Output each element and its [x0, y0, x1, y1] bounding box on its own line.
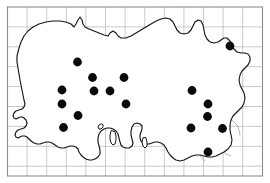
record-dot [187, 124, 196, 133]
record-dot [106, 87, 115, 96]
record-dot [122, 100, 131, 109]
record-dot [90, 87, 99, 96]
record-dot [88, 73, 97, 82]
record-dot [204, 100, 213, 109]
record-dot [226, 42, 235, 51]
record-dot [218, 124, 227, 133]
record-dot [188, 86, 197, 95]
record-dot [74, 111, 83, 120]
distribution-map-figure [0, 0, 270, 183]
record-dot [120, 73, 129, 82]
record-dot [59, 123, 68, 132]
record-dot [204, 148, 213, 157]
map-canvas [0, 0, 270, 183]
record-dot [203, 112, 212, 121]
record-dot [58, 86, 67, 95]
record-dot [58, 100, 67, 109]
small-offshore-island [98, 124, 103, 129]
coastal-inlet-detail [110, 131, 116, 145]
record-dot [73, 58, 82, 67]
